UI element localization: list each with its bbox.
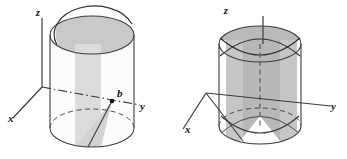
z-axis-label: z (35, 6, 41, 18)
x-axis-label: x (7, 112, 14, 124)
x-axis-label: x (184, 123, 191, 135)
y-axis-label: y (329, 100, 336, 112)
diagram-panel-left: z y x b (0, 0, 174, 159)
point-b-dot (110, 99, 115, 104)
x-axis-line (13, 87, 42, 118)
left-diagram-svg: z y x b (0, 0, 174, 159)
figure-root: z y x b (0, 0, 347, 159)
point-b-label: b (117, 87, 123, 99)
z-axis-label: z (223, 4, 229, 16)
diagram-panel-right: z y x (173, 0, 347, 159)
y-axis-label: y (138, 100, 145, 112)
right-diagram-svg: z y x (173, 0, 347, 159)
